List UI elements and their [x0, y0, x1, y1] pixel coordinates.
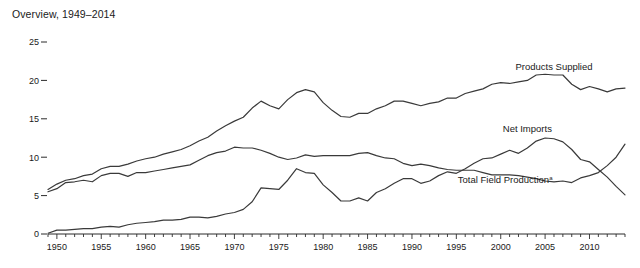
x-tick-label: 1990 — [402, 242, 422, 252]
x-tick-label: 1960 — [136, 242, 156, 252]
x-tick-label: 1995 — [446, 242, 466, 252]
x-tick-label: 1970 — [224, 242, 244, 252]
y-axis: 0510152025 — [29, 37, 47, 239]
x-tick-label: 2005 — [535, 242, 555, 252]
y-tick-label: 25 — [29, 37, 39, 47]
x-tick-label: 1985 — [358, 242, 378, 252]
series-lines — [48, 74, 625, 233]
x-tick-label: 1950 — [47, 242, 67, 252]
x-axis: 1950195519601965197019751980198519901995… — [47, 234, 625, 252]
y-tick-label: 5 — [34, 191, 39, 201]
series-labels: Products SuppliedNet ImportsTotal Field … — [458, 61, 593, 186]
series-label-0: Products Supplied — [515, 61, 592, 72]
x-tick-label: 2000 — [491, 242, 511, 252]
y-tick-label: 0 — [34, 229, 39, 239]
chart-figure: Overview, 1949–2014 0510152025 195019551… — [0, 0, 640, 268]
x-tick-label: 1955 — [91, 242, 111, 252]
x-tick-label: 1980 — [313, 242, 333, 252]
x-tick-label: 2010 — [579, 242, 599, 252]
y-tick-label: 10 — [29, 153, 39, 163]
series-label-2: Total Field Productiona — [458, 174, 553, 185]
line-chart-plot: 0510152025 19501955196019651970197519801… — [0, 0, 640, 268]
footnote-marker: a — [549, 175, 553, 181]
x-tick-label: 1975 — [269, 242, 289, 252]
x-tick-label: 1965 — [180, 242, 200, 252]
y-tick-label: 15 — [29, 114, 39, 124]
series-label-1: Net Imports — [503, 123, 552, 134]
y-tick-label: 20 — [29, 76, 39, 86]
series-line-1 — [48, 138, 625, 233]
